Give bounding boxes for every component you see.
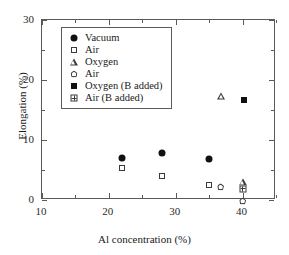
y-axis-minor-tick — [42, 50, 45, 51]
filled-square-icon — [71, 83, 77, 89]
open-square-icon — [71, 47, 77, 53]
legend-item: Oxygen — [67, 56, 163, 68]
y-axis-tick — [42, 20, 47, 21]
x-axis-tick-top — [109, 20, 110, 25]
legend-item: Air — [67, 44, 163, 56]
y-axis-minor-tick-right — [271, 110, 274, 111]
y-axis-minor-tick — [42, 170, 45, 171]
legend-marker-filled-square-icon — [67, 80, 81, 92]
y-axis-tick-right — [269, 140, 274, 141]
x-axis-tick-top — [176, 20, 177, 25]
y-axis-minor-tick — [42, 110, 45, 111]
y-axis-tick — [42, 140, 47, 141]
y-axis-tick-right — [269, 80, 274, 81]
legend-item: Air (B added) — [67, 92, 163, 104]
legend-item-label: Oxygen — [85, 56, 118, 68]
legend-marker-open-square-icon — [67, 44, 81, 56]
x-axis-minor-tick — [142, 195, 143, 198]
legend-marker-grid-square-icon — [67, 92, 81, 104]
legend-item: Air — [67, 68, 163, 80]
legend-item-label: Air (B added) — [85, 92, 143, 104]
x-axis-tick — [42, 193, 43, 198]
scatter-chart-figure: Al concentration (%) Elongation (%) Vacu… — [0, 0, 289, 255]
legend-item: Vacuum — [67, 32, 163, 44]
y-tick-label: 10 — [10, 133, 34, 145]
y-tick-label: 20 — [10, 73, 34, 85]
legend-item-label: Oxygen (B added) — [85, 80, 163, 92]
legend: VacuumAirOxygenAirOxygen (B added)Air (B… — [61, 27, 172, 109]
grid-square-icon — [71, 95, 78, 102]
data-point — [241, 97, 247, 103]
data-point — [119, 155, 126, 162]
x-axis-title: Al concentration (%) — [0, 233, 289, 245]
x-axis-minor-tick-top — [142, 20, 143, 23]
legend-marker-open-pentagon-icon — [67, 68, 81, 80]
x-axis-minor-tick — [276, 195, 277, 198]
y-tick-label: 0 — [10, 193, 34, 205]
data-point — [159, 173, 165, 179]
data-point — [239, 185, 246, 192]
data-point — [239, 198, 246, 205]
y-axis-tick — [42, 200, 47, 201]
x-axis-minor-tick — [75, 195, 76, 198]
legend-item: Oxygen (B added) — [67, 80, 163, 92]
legend-marker-open-triangle-icon — [67, 56, 81, 68]
x-axis-minor-tick-top — [209, 20, 210, 23]
y-axis-tick-right — [269, 200, 274, 201]
y-axis-minor-tick-right — [271, 170, 274, 171]
x-axis-tick — [176, 193, 177, 198]
y-axis-minor-tick-right — [271, 50, 274, 51]
y-axis-tick-right — [269, 20, 274, 21]
x-axis-tick — [243, 193, 244, 198]
legend-item-label: Vacuum — [85, 32, 119, 44]
x-tick-label: 40 — [236, 205, 247, 217]
x-axis-tick — [109, 193, 110, 198]
y-axis-title: Elongation (%) — [16, 36, 28, 176]
data-point — [206, 182, 212, 188]
x-tick-label: 10 — [36, 205, 47, 217]
filled-circle-icon — [71, 35, 78, 42]
x-axis-minor-tick — [209, 195, 210, 198]
y-axis-tick — [42, 80, 47, 81]
x-axis-tick-top — [243, 20, 244, 25]
x-tick-label: 30 — [169, 205, 180, 217]
data-point — [217, 92, 225, 99]
data-point — [119, 165, 125, 171]
data-point — [206, 156, 213, 163]
legend-item-label: Air — [85, 68, 99, 80]
y-tick-label: 30 — [10, 13, 34, 25]
x-tick-label: 20 — [102, 205, 113, 217]
open-pentagon-icon — [71, 71, 78, 78]
legend-item-label: Air — [85, 44, 99, 56]
x-axis-minor-tick-top — [75, 20, 76, 23]
x-axis-minor-tick-top — [276, 20, 277, 23]
open-triangle-icon — [70, 59, 78, 66]
legend-marker-filled-circle-icon — [67, 32, 81, 44]
data-point — [159, 150, 166, 157]
data-point — [217, 183, 224, 190]
